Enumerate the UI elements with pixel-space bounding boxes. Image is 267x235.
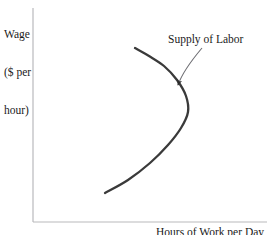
supply-of-labor-annotation-label: Supply of Labor [168, 33, 243, 46]
y-axis-label-line-2: ($ per [4, 66, 31, 79]
x-axis-label: Hours of Work per Day [156, 226, 264, 235]
supply-of-labor-curve [105, 48, 188, 193]
y-axis-label-line-3: hour) [4, 104, 31, 117]
annotation-arrow-icon [178, 48, 202, 85]
supply-of-labor-chart: Wage ($ per hour) Hours of Work per Day … [0, 0, 267, 235]
y-axis-label-line-1: Wage [4, 28, 31, 41]
y-axis-label: Wage ($ per hour) [4, 3, 31, 142]
